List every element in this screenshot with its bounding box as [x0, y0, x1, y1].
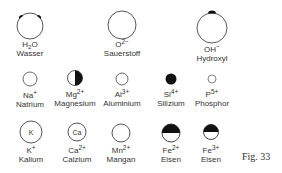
- sodium-ion-icon: [23, 72, 37, 86]
- magnesium-ion-icon: [68, 71, 83, 86]
- iron3-ion-icon: [204, 125, 219, 140]
- figure-label: Fig. 33: [242, 151, 270, 162]
- svg-text:K: K: [29, 129, 34, 136]
- aluminium-ion-icon: [116, 73, 128, 85]
- oxygen-label: O2− Sauerstoff: [92, 40, 152, 58]
- iron3-label: Fe3+ Eisen: [181, 146, 241, 164]
- phosphorus-ion-icon: [208, 75, 216, 83]
- manganese-ion-icon: [112, 124, 130, 142]
- iron2-ion-icon: [162, 124, 180, 142]
- water-molecule-icon: [17, 13, 43, 39]
- calcium-ion-icon: Ca: [68, 123, 86, 141]
- potassium-ion-icon: K: [20, 121, 42, 143]
- oxygen-ion-icon: [108, 11, 136, 39]
- phosphorus-label: P5+ Phosphor: [182, 90, 242, 108]
- water-label: H2O Wasser: [0, 40, 60, 58]
- hydroxyl-ion-icon: [197, 11, 227, 44]
- hydroxyl-label: OH− Hydroxyl: [182, 45, 242, 63]
- silicon-ion-icon: [166, 74, 177, 85]
- ion-size-diagram: K Ca H2O Wasser O2− Sauerstoff OH− Hydro…: [0, 0, 282, 173]
- svg-text:Ca: Ca: [73, 129, 82, 136]
